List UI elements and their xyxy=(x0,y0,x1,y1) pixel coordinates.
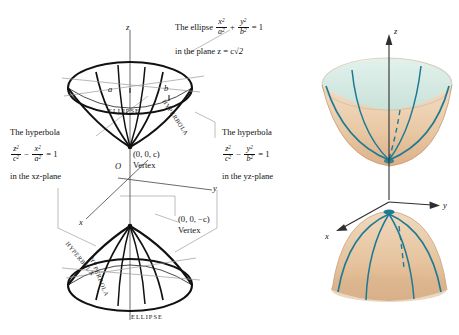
vertex-upper-label: Vertex xyxy=(133,161,155,171)
axis-label-z-right: z xyxy=(394,26,397,36)
ellipse-eq-term1: x2 a2 xyxy=(216,18,227,38)
conic-sections-figure: The ellipse x2 a2 + y2 b2 = 1 in the pla… xyxy=(0,0,459,335)
semi-axis-a-label: a xyxy=(108,84,112,94)
axis-label-y-left: y xyxy=(213,183,217,193)
semi-axis-b-label: b xyxy=(164,83,168,93)
hyp-xz-term2: x2 a2 xyxy=(32,145,43,165)
ellipse-callout-line1: The ellipse x2 a2 + y2 b2 = 1 xyxy=(175,18,263,38)
ellipse-eq-term2: y2 b2 xyxy=(238,18,249,38)
hyp-yz-equals: = 1 xyxy=(258,149,269,159)
hyp-yz-term2: y2 b2 xyxy=(244,145,255,165)
hyperbola-yz-line1: The hyperbola xyxy=(222,128,272,138)
vertex-lower-coord: (0, 0, −c) xyxy=(178,215,210,225)
hyp-xz-minus: − xyxy=(24,149,29,159)
vertex-lower-label: Vertex xyxy=(178,226,200,236)
hyperbola-yz-plane: in the yz-plane xyxy=(222,172,273,182)
hyp-xz-equals: = 1 xyxy=(46,149,57,159)
ellipse-eq-equals: = 1 xyxy=(252,22,263,32)
origin-label: O xyxy=(115,161,121,171)
hyp-xz-term1: z2 c2 xyxy=(11,145,21,165)
axis-label-x-right: x xyxy=(325,231,329,241)
vertex-upper-coord: (0, 0, c) xyxy=(133,150,160,160)
ellipse-callout-line2: in the plane z = c√2 xyxy=(175,47,243,57)
axis-label-x-left: x xyxy=(79,217,83,227)
hyperbola-yz-equation: z2 c2 − y2 b2 = 1 xyxy=(222,145,269,165)
axis-label-y-right: y xyxy=(443,200,447,210)
ellipse-eq-plus: + xyxy=(230,22,235,32)
hyp-yz-minus: − xyxy=(236,149,241,159)
hyperbola-xz-plane: in the xz-plane xyxy=(10,172,61,182)
ellipse-curve-label-top: ELLIPSE xyxy=(108,107,140,114)
ellipse-curve-label-bottom: ELLIPSE xyxy=(131,313,163,320)
hyperbola-xz-equation: z2 c2 − x2 a2 = 1 xyxy=(10,145,57,165)
axis-label-z-left: z xyxy=(126,22,129,32)
hyp-yz-term1: z2 c2 xyxy=(223,145,233,165)
hyperbola-xz-line1: The hyperbola xyxy=(10,128,60,138)
